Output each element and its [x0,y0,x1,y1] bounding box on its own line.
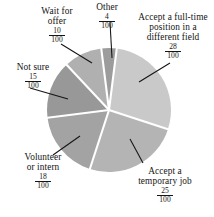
pie-chart-figure: Other 4 100 Accept a full-time position … [0,0,214,217]
pie-value-volunteer-or-intern-denominator: 100 [35,182,50,190]
pie-label-wait-for-offer: Wait for offer 10 100 [26,6,88,44]
pie-label-volunteer-or-intern-line2: or intern [6,162,80,172]
pie-label-other-line1: Other [84,2,130,12]
pie-label-other: Other 4 100 [84,2,130,30]
pie-label-accept-temporary-job: Accept a temporary job 25 100 [120,166,210,204]
pie-label-not-sure: Not sure 15 100 [2,62,64,90]
pie-label-wait-for-offer-line2: offer [26,16,88,26]
pie-value-accept-temporary-job: 25 100 [157,187,172,204]
pie-value-accept-full-time-denominator: 100 [165,52,180,60]
pie-label-volunteer-or-intern: Volunteer or intern 18 100 [6,152,80,190]
pie-label-accept-temporary-job-line1: Accept a [120,166,210,176]
pie-label-accept-full-time-line1: Accept a full-time [134,12,212,22]
pie-value-wait-for-offer-denominator: 100 [49,36,64,44]
pie-value-accept-temporary-job-denominator: 100 [157,196,172,204]
pie-label-accept-full-time-line2: position in a [134,22,212,32]
pie-value-wait-for-offer: 10 100 [49,27,64,44]
pie-label-wait-for-offer-line1: Wait for [26,6,88,16]
pie-value-accept-full-time: 28 100 [165,43,180,60]
pie-label-not-sure-line1: Not sure [2,62,64,72]
pie-value-other: 4 100 [99,13,114,30]
pie-label-accept-temporary-job-line2: temporary job [120,176,210,186]
pie-value-not-sure-denominator: 100 [25,82,40,90]
pie-value-volunteer-or-intern: 18 100 [35,173,50,190]
pie-value-other-denominator: 100 [99,22,114,30]
pie-label-accept-full-time: Accept a full-time position in a differe… [134,12,212,60]
pie-label-volunteer-or-intern-line1: Volunteer [6,152,80,162]
pie-label-accept-full-time-line3: different field [134,32,212,42]
pie-value-not-sure: 15 100 [25,73,40,90]
